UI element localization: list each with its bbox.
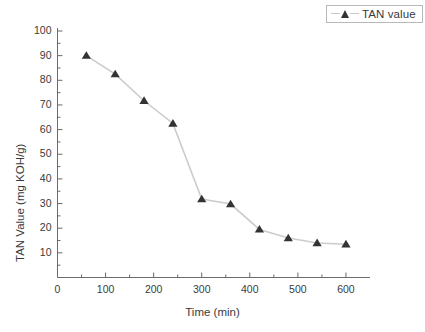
series-line-tan-value	[86, 56, 346, 245]
y-tick-label: 40	[10, 172, 52, 184]
y-tick-label: 20	[10, 221, 52, 233]
y-tick-label: 50	[10, 147, 52, 159]
x-tick-label: 200	[134, 283, 174, 295]
data-point-marker[interactable]	[197, 195, 206, 203]
y-tick-label: 70	[10, 98, 52, 110]
x-tick-label: 400	[230, 283, 270, 295]
y-tick-label: 90	[10, 49, 52, 61]
data-point-marker[interactable]	[82, 51, 91, 59]
y-tick-label: 100	[10, 24, 52, 36]
x-tick-label: 100	[86, 283, 126, 295]
x-axis-title: Time (min)	[0, 306, 425, 318]
x-tick-label: 300	[182, 283, 222, 295]
x-tick-label: 600	[326, 283, 366, 295]
y-tick-label: 30	[10, 197, 52, 209]
chart-container: TAN value Time (min) TAN Value (mg KOH/g…	[0, 0, 425, 332]
x-axis-major-ticks	[58, 273, 346, 278]
x-tick-label: 500	[278, 283, 318, 295]
y-tick-label: 80	[10, 73, 52, 85]
data-point-marker[interactable]	[111, 70, 120, 78]
y-tick-label: 10	[10, 246, 52, 258]
x-tick-label: 0	[38, 283, 78, 295]
y-tick-label: 60	[10, 123, 52, 135]
